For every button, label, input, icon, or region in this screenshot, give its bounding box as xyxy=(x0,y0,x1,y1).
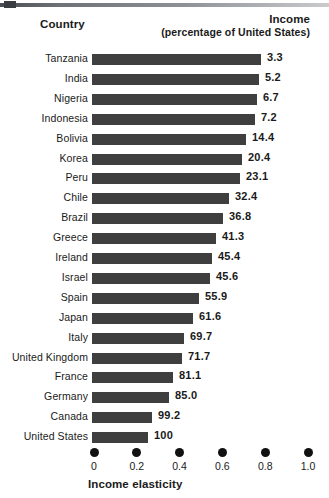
axis-tick-label: 0.6 xyxy=(202,460,242,472)
top-rule-cap xyxy=(4,1,16,8)
axis-tick-dot xyxy=(218,448,227,457)
country-label: Israel xyxy=(0,271,88,283)
bar-wrapper xyxy=(92,333,184,344)
country-label: Nigeria xyxy=(0,92,88,104)
country-label: Japan xyxy=(0,311,88,323)
bar-wrapper xyxy=(92,134,246,145)
country-label: Bolivia xyxy=(0,132,88,144)
country-label: Germany xyxy=(0,390,88,402)
chart-row: Brazil36.8 xyxy=(0,209,329,229)
bar-value-label: 20.4 xyxy=(248,151,270,163)
bar xyxy=(92,392,169,403)
bar-wrapper xyxy=(92,233,216,244)
bar-wrapper xyxy=(92,74,259,85)
bar xyxy=(92,273,210,284)
bar xyxy=(92,74,259,85)
bar-value-label: 3.3 xyxy=(267,51,283,63)
chart-row: Ireland45.4 xyxy=(0,249,329,269)
country-label: United States xyxy=(0,430,88,442)
bar-value-label: 69.7 xyxy=(190,330,212,342)
country-label: Greece xyxy=(0,231,88,243)
bar-value-label: 81.1 xyxy=(179,369,201,381)
axis-tick-label: 0 xyxy=(74,460,114,472)
bar-value-label: 71.7 xyxy=(188,350,210,362)
axis-tick-dot xyxy=(175,448,184,457)
bar-wrapper xyxy=(92,392,169,403)
country-label: Peru xyxy=(0,171,88,183)
top-rule-divider xyxy=(0,3,329,7)
bar-wrapper xyxy=(92,173,240,184)
axis-tick-dot xyxy=(304,448,313,457)
axis-tick-label: 0.2 xyxy=(117,460,157,472)
chart-row: Italy69.7 xyxy=(0,329,329,349)
bar xyxy=(92,293,199,304)
chart-row: Greece41.3 xyxy=(0,229,329,249)
bar-value-label: 45.6 xyxy=(216,270,238,282)
column-header-income-line1: Income xyxy=(269,13,310,25)
bar-wrapper xyxy=(92,154,242,165)
bar-value-label: 85.0 xyxy=(175,389,197,401)
bar-value-label: 7.2 xyxy=(261,111,277,123)
chart-row: Bolivia14.4 xyxy=(0,130,329,150)
column-header-income: Income (percentage of United States) xyxy=(130,13,310,39)
chart-row: Korea20.4 xyxy=(0,150,329,170)
axis-tick-dot xyxy=(132,448,141,457)
bar-wrapper xyxy=(92,293,199,304)
country-label: United Kingdom xyxy=(0,351,88,363)
chart-row: Japan61.6 xyxy=(0,309,329,329)
country-label: India xyxy=(0,72,88,84)
chart-row: Tanzania3.3 xyxy=(0,50,329,70)
bar xyxy=(92,313,193,324)
bar-wrapper xyxy=(92,213,223,224)
bar-value-label: 5.2 xyxy=(265,71,281,83)
bar xyxy=(92,432,148,443)
bar xyxy=(92,253,212,264)
country-label: Canada xyxy=(0,410,88,422)
chart-row: United States100 xyxy=(0,428,329,448)
bar xyxy=(92,333,184,344)
country-label: France xyxy=(0,370,88,382)
country-label: Spain xyxy=(0,291,88,303)
column-header-income-line2: (percentage of United States) xyxy=(130,26,310,39)
chart-row: France81.1 xyxy=(0,368,329,388)
chart-row: Israel45.6 xyxy=(0,269,329,289)
country-label: Korea xyxy=(0,152,88,164)
bar-wrapper xyxy=(92,432,148,443)
axis-tick-label: 0.4 xyxy=(160,460,200,472)
axis-tick-label: 1.0 xyxy=(288,460,328,472)
axis-tick-dot xyxy=(261,448,270,457)
bar-value-label: 23.1 xyxy=(246,170,268,182)
chart-row: Indonesia7.2 xyxy=(0,110,329,130)
bar xyxy=(92,114,255,125)
bar-wrapper xyxy=(92,253,212,264)
bar xyxy=(92,233,216,244)
bar xyxy=(92,213,223,224)
axis-tick-label: 0.8 xyxy=(245,460,285,472)
bar-wrapper xyxy=(92,273,210,284)
bar-wrapper xyxy=(92,114,255,125)
country-label: Indonesia xyxy=(0,112,88,124)
bar-value-label: 32.4 xyxy=(235,190,257,202)
bar-value-label: 41.3 xyxy=(222,230,244,242)
bar-wrapper xyxy=(92,54,261,65)
bar-wrapper xyxy=(92,412,152,423)
chart-row: United Kingdom71.7 xyxy=(0,349,329,369)
bar xyxy=(92,54,261,65)
chart-figure: Country Income (percentage of United Sta… xyxy=(0,0,329,498)
bar xyxy=(92,154,242,165)
country-label: Ireland xyxy=(0,251,88,263)
country-label: Italy xyxy=(0,331,88,343)
chart-row: Peru23.1 xyxy=(0,169,329,189)
bar-value-label: 61.6 xyxy=(199,310,221,322)
bar xyxy=(92,173,240,184)
bar xyxy=(92,94,257,105)
bar-value-label: 6.7 xyxy=(263,91,279,103)
bar xyxy=(92,372,173,383)
bar xyxy=(92,134,246,145)
bar-value-label: 14.4 xyxy=(252,131,274,143)
country-label: Chile xyxy=(0,191,88,203)
bar-value-label: 100 xyxy=(154,429,173,441)
bar-value-label: 99.2 xyxy=(158,409,180,421)
x-axis-title: Income elasticity xyxy=(88,478,182,490)
bar xyxy=(92,353,182,364)
